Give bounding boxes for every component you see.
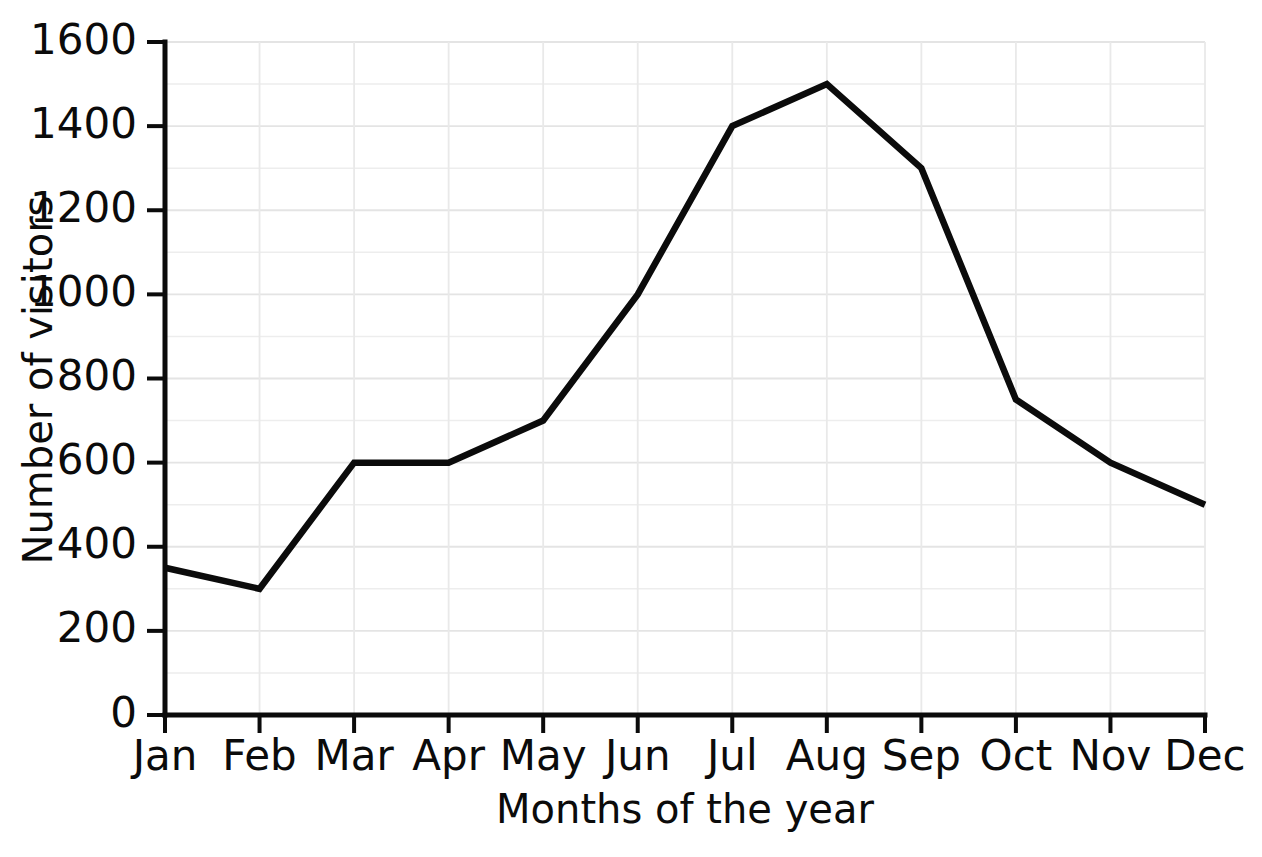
x-axis-tick-labels: JanFebMarAprMayJunJulAugSepOctNovDec	[130, 731, 1246, 780]
x-axis-title: Months of the year	[496, 786, 874, 832]
y-tick-label: 800	[57, 351, 137, 400]
y-tick-label: 400	[57, 519, 137, 568]
y-tick-label: 0	[110, 688, 137, 737]
chart-canvas: 02004006008001000120014001600 JanFebMarA…	[0, 0, 1262, 857]
y-tick-label: 600	[57, 435, 137, 484]
x-tick-label: Mar	[314, 731, 394, 780]
x-tick-label: Jan	[130, 731, 198, 780]
y-axis-tick-marks	[147, 42, 165, 715]
y-tick-label: 200	[57, 603, 137, 652]
x-tick-label: Dec	[1164, 731, 1245, 780]
x-tick-label: Apr	[412, 731, 485, 780]
y-tick-label: 1400	[30, 99, 137, 148]
visitors-line-chart: 02004006008001000120014001600 JanFebMarA…	[0, 0, 1262, 857]
y-tick-label: 1600	[30, 15, 137, 64]
x-tick-label: Feb	[222, 731, 296, 780]
y-axis-title: Number of visitors	[15, 196, 61, 565]
x-tick-label: Oct	[980, 731, 1053, 780]
x-tick-label: Nov	[1069, 731, 1151, 780]
x-tick-label: Aug	[786, 731, 868, 780]
grid-major-horizontal	[165, 42, 1205, 715]
x-tick-label: May	[500, 731, 587, 780]
x-tick-label: Jun	[602, 731, 671, 780]
x-tick-label: Jul	[704, 731, 758, 780]
x-tick-label: Sep	[882, 731, 961, 780]
